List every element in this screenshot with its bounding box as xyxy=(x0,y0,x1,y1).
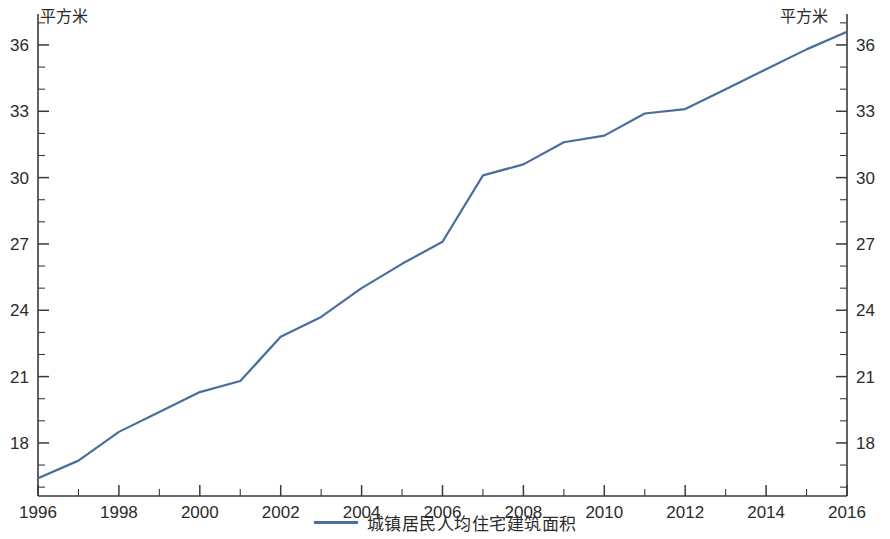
y-axis-tick-label-left: 36 xyxy=(10,36,29,55)
legend-item-label: 城镇居民人均住宅建筑面积 xyxy=(367,510,577,535)
y-axis-tick-label-right: 33 xyxy=(856,102,875,121)
y-axis-tick-label-right: 27 xyxy=(856,235,875,254)
y-axis-tick-label-left: 24 xyxy=(10,301,29,320)
series-line xyxy=(38,32,847,479)
y-axis-tick-label-right: 24 xyxy=(856,301,875,320)
y-axis-tick-label-left: 33 xyxy=(10,102,29,121)
y-axis-tick-label-right: 21 xyxy=(856,368,875,387)
legend-color-swatch xyxy=(314,521,358,524)
y-axis-tick-label-left: 21 xyxy=(10,368,29,387)
line-chart: 18212427303336 18212427303336 1996199820… xyxy=(0,0,890,539)
y-axis-tick-label-left: 30 xyxy=(10,169,29,188)
y-axis-tick-label-right: 30 xyxy=(856,169,875,188)
y-axis-tick-label-left: 18 xyxy=(10,434,29,453)
chart-legend: 城镇居民人均住宅建筑面积 xyxy=(0,510,890,535)
y-axis-tick-label-left: 27 xyxy=(10,235,29,254)
right-axis-unit-label: 平方米 xyxy=(780,7,828,26)
right-axis: 18212427303336 xyxy=(836,14,875,496)
series-layer xyxy=(38,32,847,479)
left-axis: 18212427303336 xyxy=(10,14,49,496)
y-axis-tick-label-right: 36 xyxy=(856,36,875,55)
left-axis-unit-label: 平方米 xyxy=(40,7,88,26)
y-axis-tick-label-right: 18 xyxy=(856,434,875,453)
chart-canvas: 18212427303336 18212427303336 1996199820… xyxy=(0,0,890,539)
